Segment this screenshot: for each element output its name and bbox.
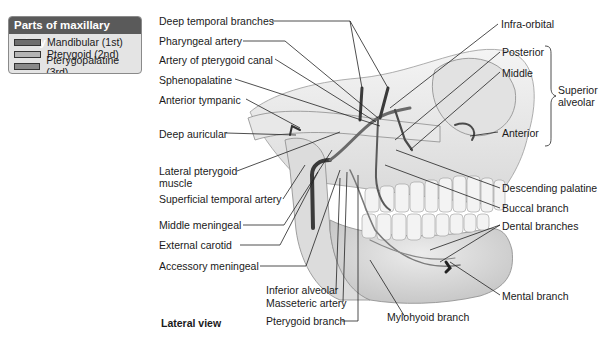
label-pharyngeal: Pharyngeal artery	[159, 35, 242, 47]
label-pterygoid-branch: Pterygoid branch	[266, 315, 345, 327]
label-dental: Dental branches	[502, 220, 578, 232]
label-lateral-pterygoid: Lateral pterygoid	[159, 165, 237, 177]
legend: Parts of maxillary artery Mandibular (1s…	[8, 16, 142, 74]
label-external-carotid: External carotid	[159, 239, 232, 251]
label-sphenopalatine: Sphenopalatine	[159, 74, 232, 86]
label-infra-orbital: Infra-orbital	[501, 18, 554, 30]
label-superficial-temporal: Superficial temporal artery	[159, 193, 282, 205]
label-superior-alveolar-2: alveolar	[558, 96, 595, 108]
legend-swatch	[14, 63, 40, 70]
label-anterior: Anterior	[502, 127, 539, 139]
legend-item-pterygopalatine: Pterygopalatine (3rd)	[14, 60, 141, 72]
label-deep-auricular: Deep auricular	[159, 128, 227, 140]
label-mylohyoid: Mylohyoid branch	[387, 311, 469, 323]
legend-title: Parts of maxillary artery	[9, 17, 141, 34]
label-superior-alveolar: Superior	[558, 84, 598, 96]
label-accessory-meningeal: Accessory meningeal	[159, 260, 259, 272]
label-masseteric: Masseteric artery	[266, 297, 347, 309]
label-deep-temporal: Deep temporal branches	[159, 15, 274, 27]
label-descending-palatine: Descending palatine	[502, 182, 597, 194]
label-buccal: Buccal branch	[502, 202, 569, 214]
label-pterygoid-canal: Artery of pterygoid canal	[159, 54, 273, 66]
label-mental: Mental branch	[502, 290, 569, 302]
label-lateral-pterygoid-2: muscle	[159, 177, 192, 189]
label-anterior-tympanic: Anterior tympanic	[159, 94, 241, 106]
label-middle-meningeal: Middle meningeal	[159, 219, 241, 231]
legend-swatch	[14, 51, 41, 58]
legend-label: Mandibular (1st)	[47, 36, 123, 48]
legend-label: Pterygopalatine (3rd)	[46, 54, 141, 74]
label-inferior-alveolar: Inferior alveolar	[266, 284, 338, 296]
label-posterior: Posterior	[502, 46, 544, 58]
view-caption: Lateral view	[161, 317, 221, 329]
legend-swatch	[14, 39, 41, 46]
label-middle: Middle	[502, 67, 533, 79]
